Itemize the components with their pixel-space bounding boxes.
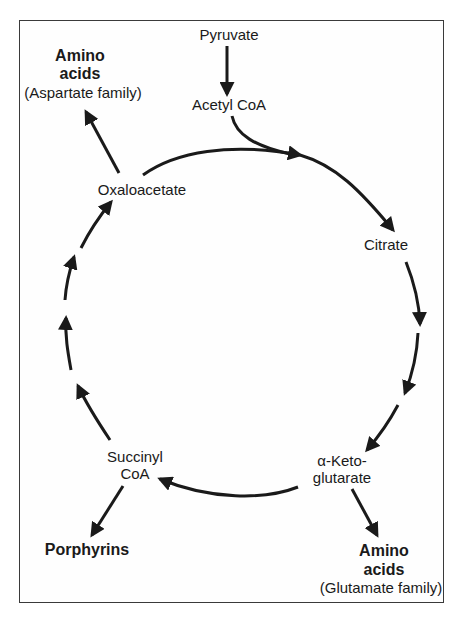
label-succinyl-coa-2: CoA — [120, 465, 149, 483]
label-pyruvate: Pyruvate — [199, 26, 258, 44]
arc-left-4-to-oxaloacetate — [81, 202, 111, 248]
label-succinyl-coa-1: Succinyl — [107, 448, 163, 466]
arc-oxaloacetate-to-mid — [143, 149, 300, 175]
arc-left-2 — [66, 318, 71, 370]
label-amino-acids-glutamate-2: acids — [364, 561, 405, 579]
label-oxaloacetate: Oxaloacetate — [98, 181, 186, 199]
label-porphyrins: Porphyrins — [45, 541, 129, 559]
arrow-oxaloacetate-to-aspartate — [86, 112, 119, 173]
arc-to-aketoglutarate — [367, 405, 398, 450]
label-amino-acids-glutamate-1: Amino — [359, 542, 409, 560]
arc-aketoglutarate-to-succinylcoa — [160, 479, 298, 496]
arc-citrate-1 — [406, 262, 420, 324]
label-acetyl-coa: Acetyl CoA — [192, 96, 266, 114]
label-alpha-ketoglutarate-1: α-Keto- — [317, 452, 367, 470]
arc-citrate-2 — [405, 333, 418, 393]
label-amino-acids-aspartate-1: Amino — [55, 47, 105, 65]
arrow-succinylcoa-to-porphyrins — [92, 486, 123, 535]
label-citrate: Citrate — [364, 236, 408, 254]
label-glutamate-family: (Glutamate family) — [320, 579, 443, 597]
arrow-aketoglutarate-to-glutamate — [352, 489, 377, 535]
arc-left-3 — [65, 257, 74, 300]
label-aspartate-family: (Aspartate family) — [24, 84, 142, 102]
label-alpha-ketoglutarate-2: glutarate — [313, 469, 371, 487]
arc-succinylcoa-1 — [78, 386, 110, 440]
label-amino-acids-aspartate-2: acids — [60, 65, 101, 83]
arc-mid-to-citrate — [300, 155, 393, 230]
